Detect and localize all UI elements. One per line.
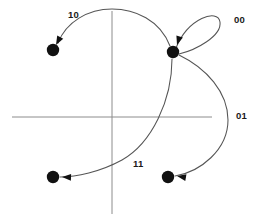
edge-label-11: 11 — [133, 158, 144, 169]
edge-label-01: 01 — [236, 110, 248, 121]
arrow-into-source-loop-icon — [174, 35, 183, 46]
state-nodes-group — [47, 44, 179, 183]
state-node-top-left[interactable] — [47, 44, 59, 56]
arrow-into-bottom-left-icon — [62, 174, 71, 181]
edge-curve-00-self-loop — [176, 16, 220, 54]
transition-edges-group — [58, 9, 228, 177]
state-node-bottom-right[interactable] — [162, 171, 174, 183]
edge-curve-01 — [175, 55, 228, 176]
state-transition-diagram: 10 00 01 11 — [0, 0, 255, 224]
edge-label-00: 00 — [234, 14, 245, 25]
state-node-bottom-left[interactable] — [47, 171, 59, 183]
arrowheads-group — [53, 35, 186, 181]
axes-group — [12, 11, 212, 214]
state-node-source[interactable] — [167, 46, 179, 58]
edge-curve-11 — [60, 59, 172, 177]
diagram-canvas: 10 00 01 11 — [0, 0, 255, 224]
edge-label-10: 10 — [68, 9, 79, 20]
